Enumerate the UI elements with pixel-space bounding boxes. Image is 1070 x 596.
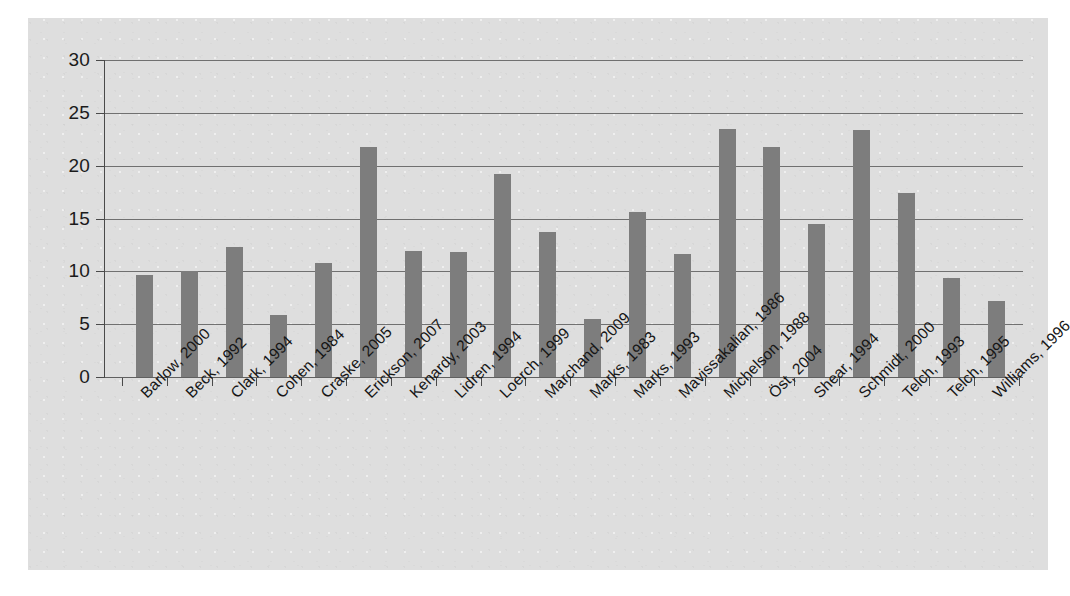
y-tick-20	[96, 166, 105, 167]
y-tick-10	[96, 271, 105, 272]
y-tick-5	[96, 324, 105, 325]
y-tick-15	[96, 219, 105, 220]
x-axis-tick-labels: Barlow, 2000Beck, 1992Clark, 1994Cohen, …	[0, 0, 1070, 596]
y-tick-30	[96, 60, 105, 61]
bar-chart-figure: 051015202530 Barlow, 2000Beck, 1992Clark…	[0, 0, 1070, 596]
y-tick-25	[96, 113, 105, 114]
x-axis-label: Williams, 1996	[989, 317, 1070, 402]
y-tick-0	[96, 377, 105, 378]
